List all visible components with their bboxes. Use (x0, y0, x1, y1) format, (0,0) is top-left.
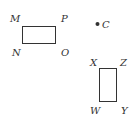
label-z: Z (119, 57, 128, 68)
rectangle-xzyw (100, 69, 117, 102)
label-x: X (89, 57, 98, 68)
label-p: P (60, 13, 68, 24)
label-m: M (9, 13, 21, 24)
label-o: O (61, 47, 69, 58)
point-c (96, 22, 100, 26)
label-c: C (102, 19, 110, 30)
label-n: N (11, 47, 22, 58)
rectangle-mnop (23, 27, 56, 44)
label-w: W (90, 105, 101, 116)
geometry-figure: M P N O C X Z W Y (0, 0, 131, 119)
label-y: Y (121, 105, 129, 116)
